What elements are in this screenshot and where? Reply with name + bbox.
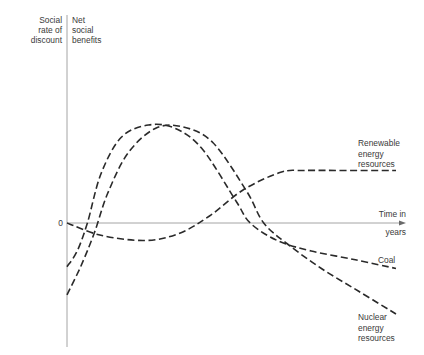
y-axis-left-label-line: Social <box>39 15 62 25</box>
y-axis-right-label: Net social benefits <box>72 15 101 45</box>
x-axis-label-line: years <box>386 227 406 237</box>
series-label-line: Coal <box>378 255 395 265</box>
series-label-coal: Coal <box>378 255 395 265</box>
renewable-curve <box>67 170 396 240</box>
y-axis-right-label-line: social <box>72 25 94 35</box>
series-label-line: Nuclear <box>358 312 387 322</box>
zero-tick-label: 0 <box>58 218 63 228</box>
series-label-nuclear: Nuclear energy resources <box>358 312 395 343</box>
y-axis-right-label-line: Net <box>72 15 86 25</box>
coal-curve <box>67 124 396 268</box>
series-label-line: Renewable <box>358 138 400 148</box>
series-label-line: resources <box>358 159 395 169</box>
y-axis-left-label: Social rate of discount <box>31 15 63 45</box>
series-label-line: energy <box>358 323 384 333</box>
series-lines <box>67 124 396 314</box>
x-axis-arrow <box>399 221 406 226</box>
y-axis-left-label-line: discount <box>31 35 63 45</box>
series-label-renewable: Renewable energy resources <box>358 138 400 169</box>
nuclear-curve <box>67 125 396 314</box>
x-axis-label-line: Time in <box>379 209 406 219</box>
y-axis-left-label-line: rate of <box>38 25 62 35</box>
y-axis-right-label-line: benefits <box>72 35 101 45</box>
series-label-line: energy <box>358 149 384 159</box>
series-label-line: resources <box>358 333 395 343</box>
chart: Social rate of discount Net social benef… <box>0 0 424 355</box>
